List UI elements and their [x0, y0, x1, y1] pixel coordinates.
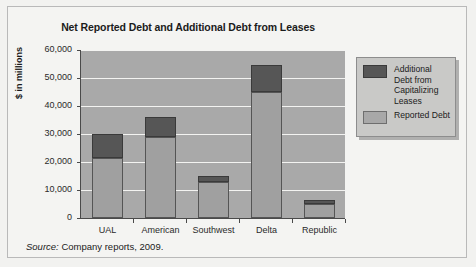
legend-entry-reported-debt[interactable]: Reported Debt	[363, 110, 452, 124]
gridline	[81, 50, 345, 51]
y-axis-title: $ in millions	[14, 47, 24, 99]
y-axis-tick-label: 60,000	[24, 44, 72, 54]
bar-ual	[92, 134, 123, 218]
chart-legend: Additional Debt from Capitalizing Leases…	[356, 57, 456, 137]
legend-swatch-icon	[363, 65, 387, 78]
bar-segment-additional-debt	[92, 134, 123, 158]
x-axis-tick-label: UAL	[81, 225, 134, 235]
source-note: Source: Company reports, 2009.	[26, 241, 163, 252]
y-axis-tick-label: 10,000	[24, 184, 72, 194]
legend-label: Reported Debt	[394, 110, 452, 124]
y-axis-tick	[77, 78, 81, 79]
bar-segment-additional-debt	[145, 117, 176, 137]
legend-swatch-icon	[363, 111, 387, 124]
bar-segment-additional-debt	[251, 65, 282, 92]
bar-segment-reported-debt	[198, 182, 229, 218]
bar-segment-reported-debt	[251, 92, 282, 218]
x-axis-tick-label: Delta	[240, 225, 293, 235]
y-axis-tick	[77, 190, 81, 191]
gridline	[81, 78, 345, 79]
x-axis-tick	[345, 219, 346, 223]
bar-segment-reported-debt	[304, 204, 335, 218]
y-axis-tick-label: 20,000	[24, 156, 72, 166]
plot-area: 010,00020,00030,00040,00050,00060,000UAL…	[80, 51, 345, 219]
x-axis-tick-label: Republic	[293, 225, 346, 235]
bar-southwest	[198, 176, 229, 218]
y-axis-tick	[77, 134, 81, 135]
y-axis-tick	[77, 50, 81, 51]
x-axis-tick	[239, 219, 240, 223]
x-axis-tick	[186, 219, 187, 223]
chart-title: Net Reported Debt and Additional Debt fr…	[8, 21, 368, 33]
source-label: Source:	[26, 241, 59, 252]
y-axis-tick	[77, 106, 81, 107]
bar-segment-additional-debt	[198, 176, 229, 182]
x-axis-tick	[292, 219, 293, 223]
bar-segment-reported-debt	[145, 137, 176, 218]
x-axis-tick-label: American	[134, 225, 187, 235]
y-axis-tick	[77, 162, 81, 163]
bar-segment-reported-debt	[92, 158, 123, 218]
gridline	[81, 106, 345, 107]
source-text: Company reports, 2009.	[59, 241, 164, 252]
legend-label: Additional Debt from Capitalizing Leases	[394, 64, 452, 106]
y-axis-tick-label: 50,000	[24, 72, 72, 82]
chart-figure: Net Reported Debt and Additional Debt fr…	[7, 6, 467, 258]
y-axis-tick-label: 0	[24, 212, 72, 222]
x-axis-tick	[133, 219, 134, 223]
bar-delta	[251, 65, 282, 218]
y-axis-tick-label: 30,000	[24, 128, 72, 138]
y-axis-tick-label: 40,000	[24, 100, 72, 110]
bar-american	[145, 117, 176, 218]
bar-segment-additional-debt	[304, 200, 335, 204]
bar-republic	[304, 200, 335, 218]
legend-entry-additional-debt[interactable]: Additional Debt from Capitalizing Leases	[363, 64, 452, 106]
y-axis-tick	[77, 218, 81, 219]
x-axis-tick-label: Southwest	[187, 225, 240, 235]
